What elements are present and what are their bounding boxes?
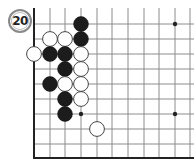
white-stone[interactable] <box>27 47 42 62</box>
white-stone[interactable] <box>74 77 89 92</box>
black-stone[interactable] <box>58 47 73 62</box>
problem-number-badge: 20 <box>8 9 32 33</box>
white-stone[interactable] <box>43 32 58 47</box>
star-point <box>173 112 177 116</box>
white-stone[interactable] <box>74 92 89 107</box>
white-stone[interactable] <box>58 77 73 92</box>
problem-number: 20 <box>12 14 28 28</box>
white-stone[interactable] <box>58 32 73 47</box>
black-stone[interactable] <box>58 107 73 122</box>
white-stone[interactable] <box>74 62 89 77</box>
black-stone[interactable] <box>58 62 73 77</box>
black-stone[interactable] <box>43 47 58 62</box>
white-stone[interactable] <box>74 47 89 62</box>
black-stone[interactable] <box>74 32 89 47</box>
star-point <box>79 112 83 116</box>
star-point <box>173 22 177 26</box>
black-stone[interactable] <box>58 92 73 107</box>
black-stone[interactable] <box>74 17 89 32</box>
white-stone[interactable] <box>90 122 105 137</box>
black-stone[interactable] <box>43 77 58 92</box>
